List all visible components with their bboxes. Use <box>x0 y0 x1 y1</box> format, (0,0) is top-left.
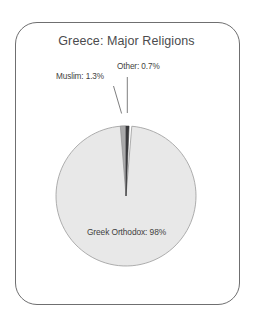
chart-title: Greece: Major Religions <box>0 34 253 48</box>
figure-root: Greece: Major Religions Muslim: 1.3% Oth… <box>0 0 253 331</box>
pie-chart-svg <box>0 0 253 331</box>
slice-label-muslim: Muslim: 1.3% <box>56 72 104 81</box>
leader-line-muslim <box>114 86 122 114</box>
slice-label-other: Other: 0.7% <box>117 62 160 71</box>
slice-label-greek-orthodox: Greek Orthodox: 98% <box>0 227 253 237</box>
